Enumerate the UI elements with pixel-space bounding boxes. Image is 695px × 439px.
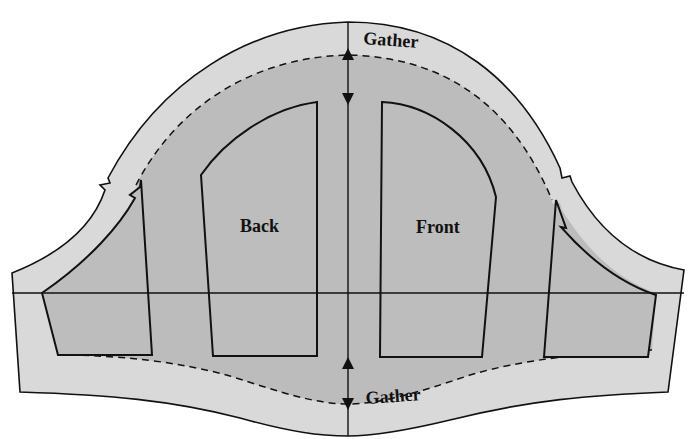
gather-label-bottom: Gather (365, 384, 421, 408)
gather-label-top: Gather (363, 28, 419, 52)
sleeve-pattern-diagram: Gather Gather Back Front (0, 0, 695, 439)
front-label: Front (416, 217, 460, 237)
back-label: Back (240, 216, 279, 236)
